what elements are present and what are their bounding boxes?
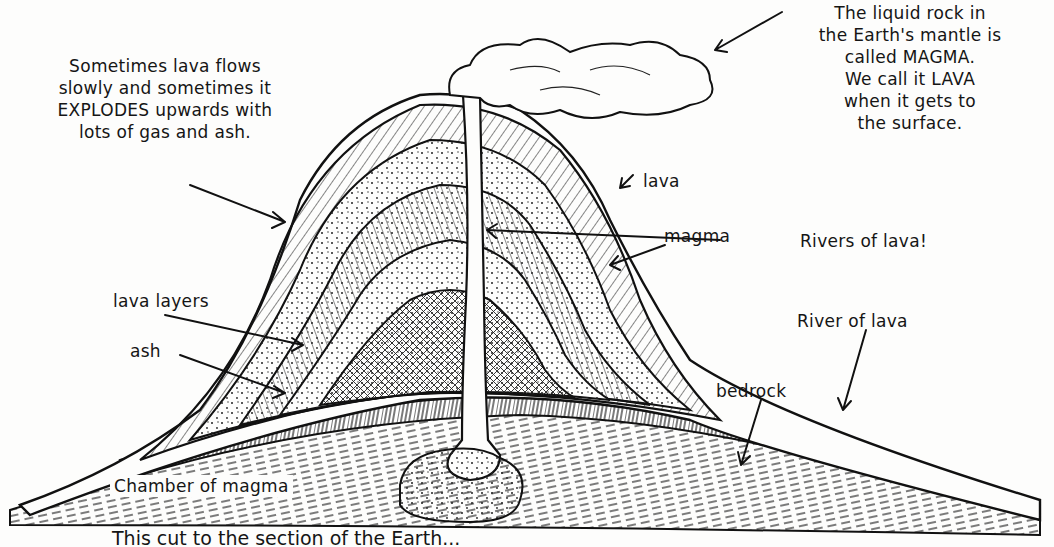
label-lava-layers: lava layers <box>113 290 209 312</box>
magma-note-line: The liquid rock in <box>770 2 1050 24</box>
label-river-of-lava: River of lava <box>797 310 908 332</box>
label-chamber-of-magma: Chamber of magma <box>110 475 293 497</box>
magma-note-line: when it gets to <box>770 90 1050 112</box>
magma-note-line: We call it LAVA <box>770 68 1050 90</box>
volcano-diagram: Sometimes lava flows slowly and sometime… <box>0 0 1054 547</box>
diagram-caption: This cut to the section of the Earth... <box>112 527 460 547</box>
magma-note-line: the Earth's mantle is <box>770 24 1050 46</box>
label-rivers-of-lava: Rivers of lava! <box>800 230 927 252</box>
explosion-note-line: Sometimes lava flows <box>20 55 310 77</box>
label-magma: magma <box>664 225 730 247</box>
magma-note: The liquid rock in the Earth's mantle is… <box>770 2 1050 134</box>
magma-note-line: the surface. <box>770 112 1050 134</box>
label-lava: lava <box>643 170 680 192</box>
explosion-note: Sometimes lava flows slowly and sometime… <box>20 55 310 143</box>
magma-chamber <box>400 449 523 522</box>
explosion-note-line: EXPLODES upwards with <box>20 99 310 121</box>
label-bedrock: bedrock <box>716 380 786 402</box>
magma-note-line: called MAGMA. <box>770 46 1050 68</box>
label-ash: ash <box>130 340 161 362</box>
explosion-note-line: slowly and sometimes it <box>20 77 310 99</box>
explosion-note-line: lots of gas and ash. <box>20 121 310 143</box>
